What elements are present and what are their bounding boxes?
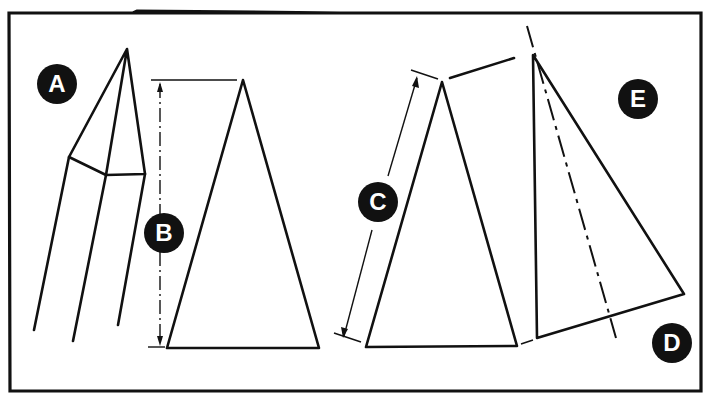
developed-face (527, 26, 684, 338)
diagram-canvas (0, 0, 712, 404)
label-badge-a: A (37, 64, 77, 104)
outer-frame (9, 11, 701, 391)
connector-dash (521, 340, 533, 344)
label-badge-c: C (358, 182, 398, 222)
label-badge-b: B (144, 213, 184, 253)
triangle-true-height (167, 80, 319, 348)
label-badge-d: D (652, 323, 692, 363)
label-badge-e: E (618, 79, 658, 119)
